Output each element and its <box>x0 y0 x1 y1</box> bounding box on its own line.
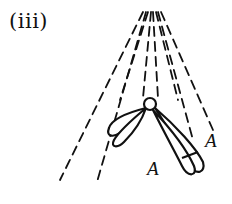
spindle-fiber <box>60 12 143 180</box>
spindle-fiber <box>97 12 146 182</box>
allele-label-a-upper: A <box>205 130 217 152</box>
allele-label-a-lower: A <box>147 158 159 180</box>
spindle-fiber <box>143 12 151 98</box>
spindle-fiber <box>161 12 213 130</box>
spindle-chromosome-drawing <box>0 0 232 204</box>
centromere <box>144 98 156 110</box>
meiosis-diagram: (iii) A A <box>0 0 232 204</box>
spindle-fiber <box>153 12 158 98</box>
